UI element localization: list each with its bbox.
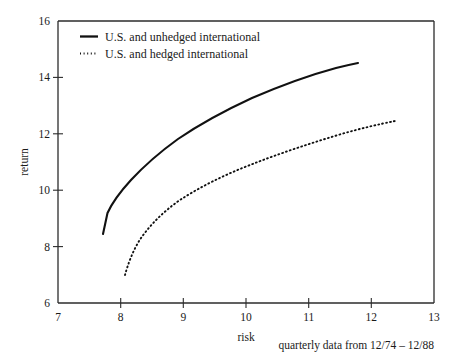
y-tick-label-12: 12 <box>39 128 51 140</box>
x-tick-label-10: 10 <box>240 311 252 323</box>
legend-item-unhedged: U.S. and unhedged international <box>80 30 261 44</box>
legend-label-hedged: U.S. and hedged international <box>105 47 249 61</box>
x-tick-label-8: 8 <box>118 311 124 323</box>
x-tick-label-13: 13 <box>428 311 440 323</box>
efficient-frontier-chart: 6 8 10 12 14 16 7 8 9 10 11 12 13 risk r… <box>0 0 464 357</box>
y-tick-label-10: 10 <box>39 184 51 196</box>
y-tick-label-16: 16 <box>39 15 51 27</box>
legend-label-unhedged: U.S. and unhedged international <box>105 30 261 44</box>
x-axis-title: risk <box>237 331 255 343</box>
chart-canvas: 6 8 10 12 14 16 7 8 9 10 11 12 13 risk r… <box>0 0 464 357</box>
x-tick-label-11: 11 <box>303 311 314 323</box>
series-hedged <box>125 121 395 275</box>
y-tick-label-6: 6 <box>44 297 50 309</box>
series-line-unhedged <box>103 63 358 234</box>
x-tick-label-7: 7 <box>55 311 61 323</box>
x-tick-label-9: 9 <box>180 311 186 323</box>
chart-caption: quarterly data from 12/74 – 12/88 <box>278 339 434 352</box>
y-tick-label-8: 8 <box>44 241 50 253</box>
y-axis-title: return <box>18 148 30 176</box>
y-tick-label-14: 14 <box>39 71 51 83</box>
axis-frame <box>58 21 434 303</box>
chart-legend: U.S. and unhedged international U.S. and… <box>80 30 261 61</box>
legend-item-hedged: U.S. and hedged international <box>80 47 249 61</box>
x-tick-label-12: 12 <box>366 311 378 323</box>
series-unhedged <box>103 63 358 234</box>
series-line-hedged <box>125 121 395 275</box>
